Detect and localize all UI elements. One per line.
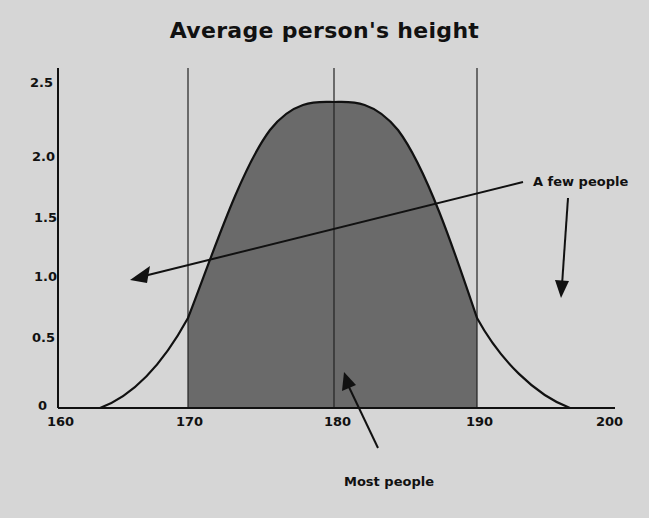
arrowhead-down-icon <box>555 280 569 298</box>
x-tick-200: 200 <box>596 414 623 429</box>
y-tick-0.5: 0.5 <box>32 330 55 345</box>
annotation-few-people: A few people <box>533 174 628 189</box>
x-tick-180: 180 <box>324 414 351 429</box>
x-tick-170: 170 <box>176 414 203 429</box>
y-tick-1.0: 1.0 <box>34 269 57 284</box>
y-tick-0: 0 <box>38 398 47 413</box>
y-tick-2.0: 2.0 <box>32 149 55 164</box>
y-tick-1.5: 1.5 <box>34 210 57 225</box>
chart-plot <box>0 0 649 518</box>
x-tick-190: 190 <box>466 414 493 429</box>
annotation-most-people: Most people <box>344 474 434 489</box>
x-tick-160: 160 <box>47 414 74 429</box>
y-tick-2.5: 2.5 <box>30 75 53 90</box>
arrowhead-left-icon <box>130 266 150 283</box>
few-people-arrow-down <box>562 198 568 285</box>
